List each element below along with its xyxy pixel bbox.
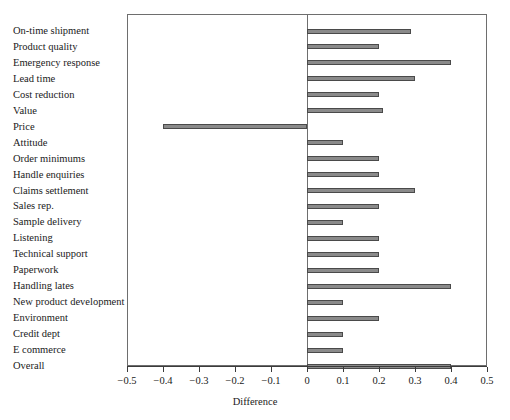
x-axis-tick <box>451 367 452 372</box>
x-axis-tick <box>271 367 272 372</box>
bar <box>307 172 379 177</box>
category-label: E commerce <box>0 344 119 355</box>
bar <box>307 252 379 257</box>
bar <box>307 348 343 353</box>
category-label: Cost reduction <box>0 89 119 100</box>
x-axis-tick-label: 0.2 <box>372 375 385 386</box>
x-axis-tick-label: 0.3 <box>408 375 421 386</box>
x-axis-tick <box>415 367 416 372</box>
x-axis-tick-label: 0.4 <box>444 375 457 386</box>
category-axis-labels: On-time shipmentProduct qualityEmergency… <box>0 0 123 420</box>
bar <box>307 76 415 81</box>
x-axis-tick <box>127 367 128 372</box>
bar <box>307 29 411 34</box>
bar <box>307 92 379 97</box>
category-label: Order minimums <box>0 153 119 164</box>
x-axis-tick-label: −0.2 <box>225 375 244 386</box>
bar <box>307 108 383 113</box>
x-axis-tick-label: −0.3 <box>189 375 208 386</box>
category-label: Emergency response <box>0 57 119 68</box>
category-label: Claims settlement <box>0 185 119 196</box>
x-axis-tick <box>343 367 344 372</box>
category-label: Price <box>0 121 119 132</box>
bar <box>307 204 379 209</box>
x-axis-title: Difference <box>0 396 510 407</box>
x-axis-tick-label: −0.1 <box>261 375 280 386</box>
category-label: Listening <box>0 232 119 243</box>
category-label: Value <box>0 105 119 116</box>
category-label: Sales rep. <box>0 200 119 211</box>
difference-bar-chart: On-time shipmentProduct qualityEmergency… <box>0 0 510 420</box>
bar <box>307 284 451 289</box>
x-axis-tick <box>487 367 488 372</box>
bar <box>307 332 343 337</box>
bar <box>307 220 343 225</box>
bar <box>163 124 307 129</box>
bar <box>307 300 343 305</box>
category-label: Sample delivery <box>0 216 119 227</box>
bar <box>307 236 379 241</box>
bar <box>307 44 379 49</box>
bar <box>307 140 343 145</box>
category-label: Paperwork <box>0 264 119 275</box>
bar <box>307 268 379 273</box>
category-label: On-time shipment <box>0 25 119 36</box>
category-label: Overall <box>0 360 119 371</box>
x-axis-tick-label: 0.5 <box>480 375 493 386</box>
category-label: Handle enquiries <box>0 169 119 180</box>
category-label: Product quality <box>0 41 119 52</box>
bar <box>307 60 451 65</box>
x-axis-tick-label: −0.4 <box>153 375 172 386</box>
x-axis-tick <box>199 367 200 372</box>
bar <box>307 156 379 161</box>
x-axis-tick <box>307 367 308 372</box>
x-axis-tick <box>235 367 236 372</box>
bar <box>307 188 415 193</box>
x-axis-tick-label: 0 <box>304 375 309 386</box>
category-label: Credit dept <box>0 328 119 339</box>
category-label: Handling lates <box>0 280 119 291</box>
category-label: Technical support <box>0 248 119 259</box>
x-axis-tick-label: −0.5 <box>117 375 136 386</box>
x-axis-tick-label: 0.1 <box>336 375 349 386</box>
x-axis-tick <box>379 367 380 372</box>
bar <box>307 316 379 321</box>
category-label: Attitude <box>0 137 119 148</box>
category-label: Lead time <box>0 73 119 84</box>
category-label: Environment <box>0 312 119 323</box>
x-axis-tick <box>163 367 164 372</box>
category-label: New product development <box>0 296 119 307</box>
